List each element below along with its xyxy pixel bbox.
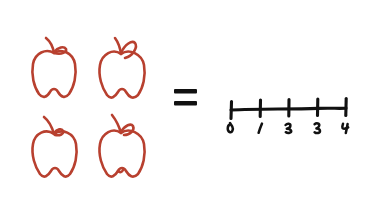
apple-label: apple <box>24 106 25 107</box>
illustration-canvas: apple apple apple apple <box>0 0 378 199</box>
apple-label: apple <box>92 184 93 185</box>
apple-icon: apple <box>24 112 84 184</box>
apple-icon: apple <box>92 34 152 106</box>
tick-label-0 <box>228 123 233 132</box>
apple-icon: apple <box>24 34 84 106</box>
tick-label-1 <box>259 124 262 133</box>
tick-label-text-3: 3 <box>218 140 219 141</box>
tick-label-4 <box>342 124 348 133</box>
equals-sign: = <box>172 86 202 112</box>
apple-label: apple <box>92 106 93 107</box>
number-line: 0 1 2 3 4 <box>218 80 358 140</box>
tick-label-text-0: 0 <box>218 140 219 141</box>
tick-label-text-4: 4 <box>218 140 219 141</box>
illustration-title: Four apples equals four on a number line <box>0 0 1 1</box>
apple-label: apple <box>24 184 25 185</box>
apple-icon: apple <box>92 112 152 184</box>
tick-label-3 <box>315 123 320 133</box>
tick-label-text-2: 2 <box>218 140 219 141</box>
equals-symbol: = <box>172 112 173 113</box>
tick-label-text-1: 1 <box>218 140 219 141</box>
tick-label-2 <box>286 124 292 133</box>
